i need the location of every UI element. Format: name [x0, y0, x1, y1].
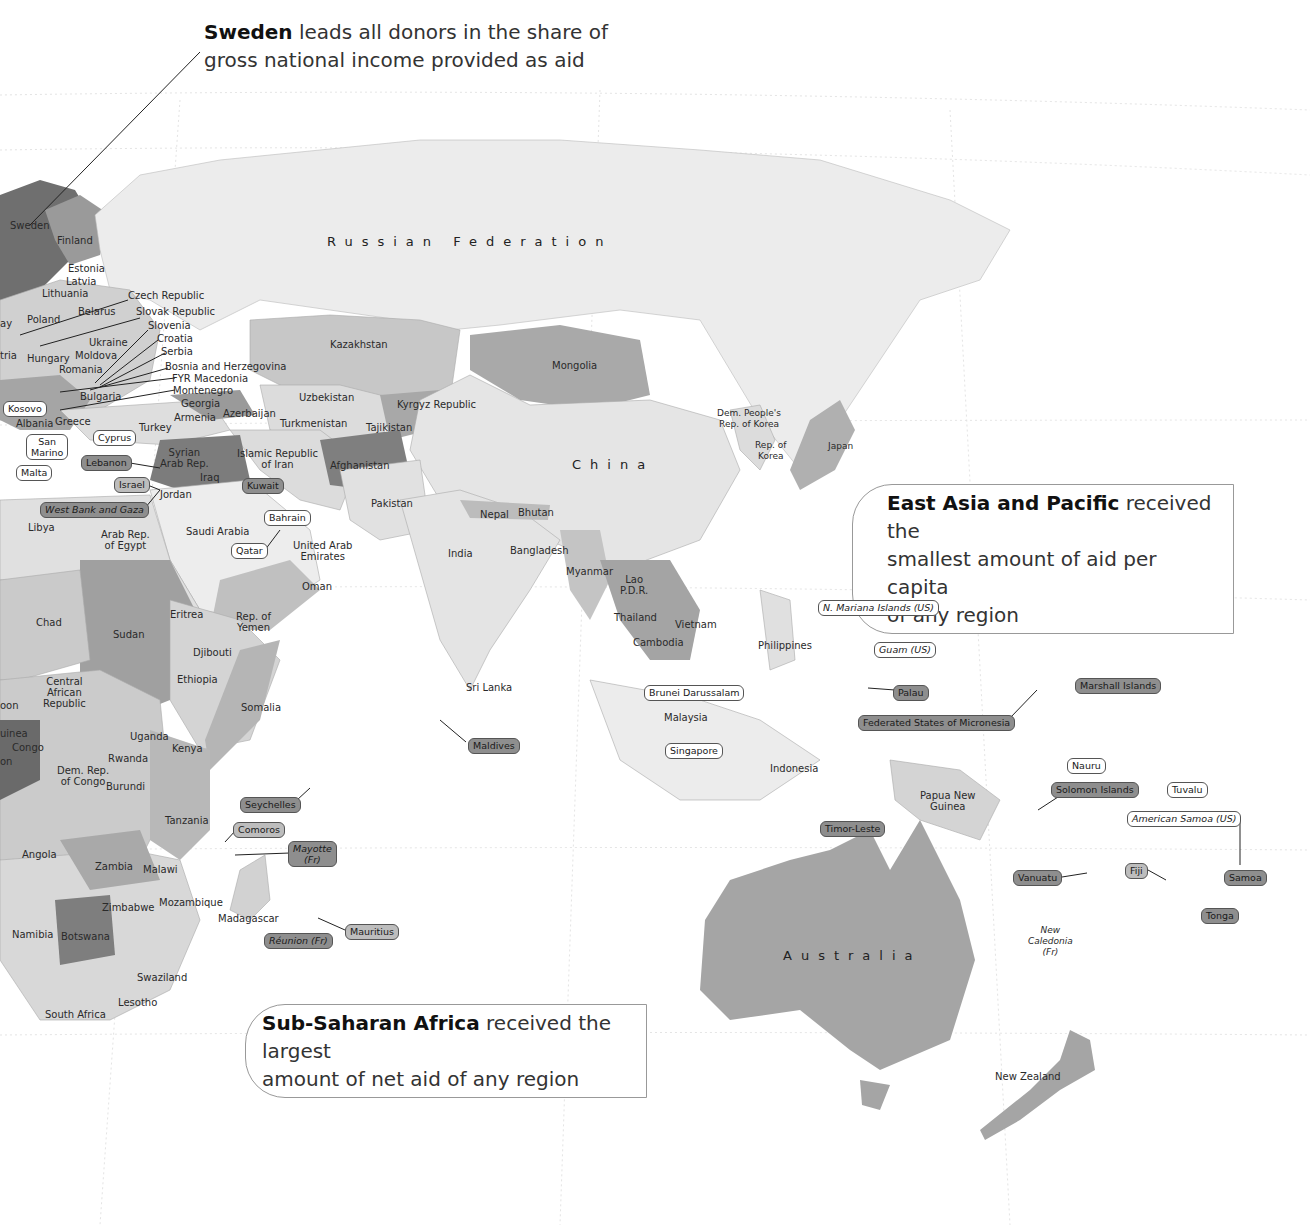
label-namibia: Namibia: [12, 929, 53, 940]
pill-cyprus: Cyprus: [93, 430, 136, 446]
label-turkey: Turkey: [139, 422, 172, 433]
pill-mayotte: Mayotte(Fr): [288, 841, 337, 867]
pill-malta: Malta: [16, 465, 52, 481]
pill-guam: Guam (US): [874, 642, 936, 658]
label-moldova: Moldova: [75, 350, 117, 361]
label-russian-federation: Russian Federation: [327, 234, 612, 249]
label-armenia: Armenia: [174, 412, 216, 423]
label-car: CentralAfricanRepublic: [43, 676, 86, 709]
label-japan: Japan: [828, 441, 853, 452]
label-chad: Chad: [36, 617, 62, 628]
label-somalia: Somalia: [241, 702, 281, 713]
callout-east-asia-bold: East Asia and Pacific: [887, 491, 1119, 515]
pill-tuvalu: Tuvalu: [1167, 782, 1208, 798]
callout-east-asia-text2: smallest amount of aid per capita: [887, 547, 1156, 599]
label-greece: Greece: [55, 416, 91, 427]
label-finland: Finland: [57, 235, 93, 246]
pill-west-bank-gaza: West Bank and Gaza: [40, 502, 149, 518]
label-zimbabwe: Zimbabwe: [102, 902, 155, 913]
label-malaysia: Malaysia: [664, 712, 708, 723]
label-bangladesh: Bangladesh: [510, 545, 569, 556]
label-uae: United ArabEmirates: [293, 540, 352, 562]
region-new-zealand: [980, 1030, 1095, 1140]
label-swaziland: Swaziland: [137, 972, 187, 983]
label-hungary: Hungary: [27, 353, 70, 364]
pill-nauru: Nauru: [1067, 758, 1106, 774]
label-india: India: [448, 548, 473, 559]
pill-fiji: Fiji: [1125, 863, 1148, 879]
callout-africa-text2: amount of net aid of any region: [262, 1067, 579, 1091]
label-on-partial: on: [0, 756, 12, 767]
label-new-zealand: New Zealand: [995, 1071, 1061, 1082]
pill-bahrain: Bahrain: [264, 510, 311, 526]
label-iraq: Iraq: [200, 472, 220, 483]
label-uzbekistan: Uzbekistan: [299, 392, 354, 403]
label-malawi: Malawi: [143, 864, 178, 875]
callout-africa: Sub-Saharan Africa received the largest …: [245, 1004, 647, 1098]
callout-sweden: Sweden leads all donors in the share of …: [204, 18, 608, 74]
callout-sweden-bold: Sweden: [204, 20, 293, 44]
callout-africa-bold: Sub-Saharan Africa: [262, 1011, 480, 1035]
label-jordan: Jordan: [160, 489, 192, 500]
label-macedonia: FYR Macedonia: [172, 373, 248, 384]
label-tanzania: Tanzania: [165, 815, 209, 826]
label-montenegro: Montenegro: [173, 385, 233, 396]
label-poland: Poland: [27, 314, 60, 325]
label-mongolia: Mongolia: [552, 360, 597, 371]
pill-mauritius: Mauritius: [345, 924, 399, 940]
label-philippines: Philippines: [758, 640, 812, 651]
label-austria-partial: tria: [0, 350, 17, 361]
label-syria: SyrianArab Rep.: [160, 447, 209, 469]
label-belarus: Belarus: [78, 306, 116, 317]
region-tasmania: [860, 1080, 890, 1110]
label-papua-new-guinea: Papua NewGuinea: [920, 790, 976, 812]
label-cambodia: Cambodia: [633, 637, 684, 648]
label-tajikistan: Tajikistan: [366, 422, 412, 433]
label-rwanda: Rwanda: [108, 753, 148, 764]
label-drc: Dem. Rep.of Congo: [57, 765, 109, 787]
pill-timor-leste: Timor-Leste: [820, 821, 885, 837]
label-slovenia: Slovenia: [148, 320, 191, 331]
label-bosnia: Bosnia and Herzegovina: [165, 361, 286, 372]
pill-tonga: Tonga: [1201, 908, 1239, 924]
label-lithuania: Lithuania: [42, 288, 88, 299]
pill-san-marino: SanMarino: [26, 434, 68, 460]
label-libya: Libya: [28, 522, 55, 533]
region-philippines: [760, 590, 795, 670]
label-kyrgyz-republic: Kyrgyz Republic: [397, 399, 476, 410]
pill-micronesia: Federated States of Micronesia: [858, 715, 1015, 731]
label-gabon-partial: oon: [0, 700, 19, 711]
pill-brunei: Brunei Darussalam: [644, 685, 744, 701]
label-uganda: Uganda: [130, 731, 169, 742]
label-congo: Congo: [12, 742, 44, 753]
pill-reunion: Réunion (Fr): [264, 933, 333, 949]
pill-lebanon: Lebanon: [81, 455, 132, 471]
label-thailand: Thailand: [614, 612, 657, 623]
label-south-africa: South Africa: [45, 1009, 106, 1020]
label-georgia: Georgia: [181, 398, 220, 409]
label-oman: Oman: [302, 581, 332, 592]
label-afghanistan: Afghanistan: [330, 460, 390, 471]
label-sri-lanka: Sri Lanka: [466, 682, 512, 693]
label-eritrea: Eritrea: [170, 609, 203, 620]
label-bulgaria: Bulgaria: [80, 391, 121, 402]
label-norway-partial: ay: [0, 318, 12, 329]
pill-comoros: Comoros: [233, 822, 285, 838]
pill-palau: Palau: [893, 685, 929, 701]
label-iran: Islamic Republicof Iran: [237, 448, 318, 470]
label-nepal: Nepal: [480, 509, 509, 520]
label-bhutan: Bhutan: [518, 507, 554, 518]
label-egypt: Arab Rep.of Egypt: [101, 529, 150, 551]
label-pakistan: Pakistan: [371, 498, 413, 509]
label-saudi-arabia: Saudi Arabia: [186, 526, 249, 537]
label-china: China: [572, 457, 654, 472]
label-serbia: Serbia: [161, 346, 193, 357]
pill-kuwait: Kuwait: [242, 478, 284, 494]
label-sudan: Sudan: [113, 629, 145, 640]
label-turkmenistan: Turkmenistan: [280, 418, 347, 429]
label-ukraine: Ukraine: [89, 337, 128, 348]
pill-marshall-islands: Marshall Islands: [1075, 678, 1161, 694]
pill-maldives: Maldives: [468, 738, 520, 754]
callout-sweden-text: leads all donors in the share of: [293, 20, 608, 44]
label-yemen: Rep. ofYemen: [236, 611, 271, 633]
